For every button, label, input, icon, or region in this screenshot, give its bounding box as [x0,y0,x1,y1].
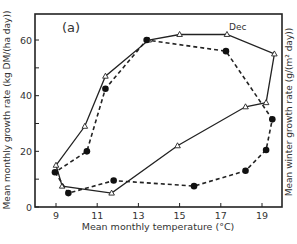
y-axis-right-label: Mean winter growth rate (g/(m² day)) [284,28,294,196]
open-triangle-marker [263,100,269,105]
growth-temperature-chart: 911131517190204060 (a) Dec Mean monthly … [0,0,297,244]
filled-circle-marker [102,85,109,92]
x-tick-label: 13 [132,210,144,221]
series-layer [52,31,277,196]
filled-circle-marker [143,37,150,44]
panel-label: (a) [62,20,80,35]
y-tick-label: 40 [20,90,32,101]
x-tick-label: 9 [53,210,59,221]
open-triangles-solid-line [56,35,274,194]
filled-circle-marker [65,190,72,197]
filled-circle-marker [269,116,276,123]
filled-circle-marker [191,183,198,190]
filled-circle-marker [263,147,270,154]
filled-circle-marker [52,169,59,176]
chart-svg: 911131517190204060 (a) Dec Mean monthly … [0,0,297,244]
y-tick-label: 0 [26,202,32,213]
filled-circle-marker [110,177,117,184]
y-tick-label: 20 [20,146,32,157]
filled-circle-marker [84,148,91,155]
plot-frame [35,14,282,207]
x-axis-label: Mean monthly temperature (°C) [82,221,235,232]
x-tick-label: 19 [256,210,268,221]
filled-circles-dashed-line [55,40,272,193]
axes: 911131517190204060 [20,14,282,221]
x-tick-label: 11 [91,210,103,221]
x-tick-label: 15 [174,210,186,221]
y-axis-label: Mean monthly growth rate (kg DM/(ha day)… [2,11,12,210]
dec-annotation: Dec [229,22,246,32]
x-tick-label: 17 [215,210,227,221]
y-tick-label: 60 [20,35,32,46]
open-triangle-marker [82,123,88,128]
filled-circle-marker [223,48,230,55]
filled-circle-marker [242,168,249,175]
